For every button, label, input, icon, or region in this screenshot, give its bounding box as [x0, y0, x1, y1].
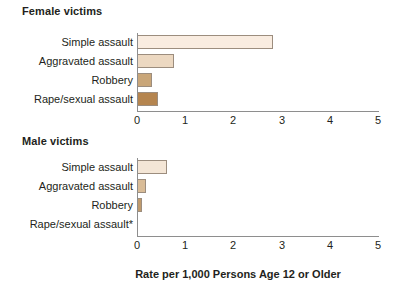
- tick-label: 3: [279, 113, 285, 127]
- bar-track: [137, 73, 379, 87]
- y-axis-line-female: [137, 33, 138, 111]
- bar-row: Simple assault: [0, 158, 398, 177]
- chart-figure: Female victims Simple assault Aggravated…: [0, 0, 398, 291]
- bar-row: Rape/sexual assault*: [0, 215, 398, 234]
- category-label: Robbery: [0, 197, 137, 213]
- category-label: Simple assault: [0, 159, 137, 175]
- x-axis-line-male: [137, 236, 379, 237]
- tick-label: 4: [327, 113, 333, 127]
- category-label: Aggravated assault: [0, 53, 137, 69]
- tick-label: 4: [327, 238, 333, 252]
- bar-row: Aggravated assault: [0, 177, 398, 196]
- plot-area-male: Simple assault Aggravated assault Robber…: [0, 158, 398, 255]
- bar-simple-assault-male: [137, 160, 167, 174]
- tick-label: 5: [375, 113, 381, 127]
- bar-rows-male: Simple assault Aggravated assault Robber…: [0, 158, 398, 234]
- bar-row: Aggravated assault: [0, 52, 398, 71]
- bar-row: Robbery: [0, 196, 398, 215]
- panel-title-female: Female victims: [22, 5, 102, 17]
- tick-label: 5: [375, 238, 381, 252]
- category-label: Rape/sexual assault*: [0, 216, 137, 232]
- category-label: Aggravated assault: [0, 178, 137, 194]
- plot-area-female: Simple assault Aggravated assault Robber…: [0, 33, 398, 130]
- tick-label: 3: [279, 238, 285, 252]
- bar-rows-female: Simple assault Aggravated assault Robber…: [0, 33, 398, 109]
- bar-track: [137, 54, 379, 68]
- category-label: Robbery: [0, 72, 137, 88]
- category-label: Simple assault: [0, 34, 137, 50]
- bar-row: Robbery: [0, 71, 398, 90]
- bar-rape-sexual-assault-female: [137, 92, 158, 106]
- x-axis-ticks-male: 0 1 2 3 4 5: [0, 238, 398, 254]
- bar-row: Rape/sexual assault: [0, 90, 398, 109]
- bar-robbery-female: [137, 73, 152, 87]
- bar-track: [137, 35, 379, 49]
- bar-aggravated-assault-female: [137, 54, 174, 68]
- bar-row: Simple assault: [0, 33, 398, 52]
- panel-title-male: Male victims: [22, 135, 89, 147]
- x-axis-line-female: [137, 111, 379, 112]
- x-axis-title: Rate per 1,000 Persons Age 12 or Older: [0, 268, 398, 280]
- x-axis-ticks-female: 0 1 2 3 4 5: [0, 113, 398, 129]
- bar-aggravated-assault-male: [137, 179, 146, 193]
- bar-simple-assault-female: [137, 35, 273, 49]
- tick-label: 0: [134, 113, 140, 127]
- tick-label: 2: [230, 238, 236, 252]
- tick-label: 1: [182, 113, 188, 127]
- bar-track: [137, 160, 379, 174]
- tick-label: 0: [134, 238, 140, 252]
- category-label: Rape/sexual assault: [0, 91, 137, 107]
- tick-label: 2: [230, 113, 236, 127]
- y-axis-line-male: [137, 158, 138, 236]
- tick-label: 1: [182, 238, 188, 252]
- bar-track: [137, 198, 379, 212]
- bar-track: [137, 217, 379, 231]
- bar-track: [137, 179, 379, 193]
- bar-track: [137, 92, 379, 106]
